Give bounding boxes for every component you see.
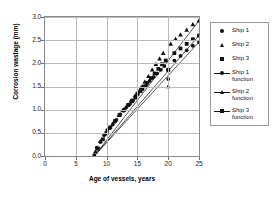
gridline-vertical	[76, 17, 77, 156]
y-tick-label: 1.0	[11, 106, 41, 113]
data-point	[108, 125, 112, 129]
legend-label: Ship 1	[232, 27, 249, 34]
circle-marker-icon	[214, 27, 230, 36]
x-tick-label: 25	[188, 161, 210, 168]
x-tick-mark	[45, 157, 46, 160]
square-marker-icon	[214, 55, 230, 64]
legend-label: Ship 3 function	[232, 107, 253, 121]
legend-item[interactable]: Ship 2	[214, 41, 266, 50]
data-point	[101, 137, 105, 141]
data-point	[184, 28, 189, 32]
x-tick-mark	[76, 157, 77, 160]
gridline-horizontal	[45, 17, 199, 18]
data-point	[145, 81, 149, 85]
x-tick-label: 15	[126, 161, 148, 168]
legend-item[interactable]: Ship 1	[214, 27, 266, 36]
gridline-vertical	[107, 17, 108, 156]
data-point	[149, 76, 153, 80]
legend-item[interactable]: Ship 3	[214, 55, 266, 64]
y-tick-label: 0.0	[11, 153, 41, 160]
legend-label: Ship 1 function	[232, 69, 253, 83]
x-tick-label: 5	[65, 161, 87, 168]
legend-triangle-icon	[220, 90, 224, 94]
y-tick-label: 3.0	[11, 14, 41, 21]
data-point	[150, 67, 155, 71]
y-tick-label: 0.5	[11, 129, 41, 136]
legend-label: Ship 2	[232, 41, 249, 48]
chart-figure: Corrosion wastage (mm) 0.00.51.01.52.02.…	[0, 0, 275, 197]
data-point	[157, 56, 162, 60]
x-tick-mark	[168, 157, 169, 160]
data-point	[126, 103, 130, 107]
triangle-marker-icon	[214, 88, 230, 97]
data-point	[185, 42, 189, 46]
x-axis-title: Age of vessels, years	[44, 175, 200, 182]
series-ship-1	[92, 40, 199, 156]
x-tick-label: 10	[96, 161, 118, 168]
data-point	[118, 113, 122, 117]
data-point	[113, 119, 117, 123]
gridline-horizontal	[45, 40, 199, 41]
circle-marker-icon	[214, 69, 230, 78]
gridline-vertical	[168, 17, 169, 156]
legend-item[interactable]: Ship 1 function	[214, 69, 266, 83]
data-point	[179, 47, 183, 51]
data-point	[139, 89, 143, 93]
legend-square-icon	[220, 57, 224, 61]
legend-item[interactable]: Ship 3 function	[214, 107, 266, 121]
gridline-vertical	[137, 17, 138, 156]
legend-circle-icon	[220, 29, 224, 33]
data-point	[156, 67, 160, 71]
x-tick-mark	[137, 157, 138, 160]
series-ship-1-function	[94, 42, 199, 156]
legend-label: Ship 3	[232, 55, 249, 62]
square-marker-icon	[214, 107, 230, 116]
legend-circle-icon	[220, 71, 224, 75]
legend-item[interactable]: Ship 2 function	[214, 88, 266, 102]
chart-legend: Ship 1Ship 2Ship 3Ship 1 functionShip 2 …	[210, 22, 269, 126]
x-tick-label: 0	[34, 161, 56, 168]
gridline-horizontal	[45, 63, 199, 64]
x-tick-mark	[107, 157, 108, 160]
y-tick-label: 1.5	[11, 83, 41, 90]
data-point	[161, 51, 166, 55]
y-tick-label: 2.0	[11, 60, 41, 67]
plot-area	[44, 16, 200, 157]
trend-line	[94, 36, 199, 156]
data-point	[130, 99, 134, 103]
triangle-marker-icon	[214, 41, 230, 50]
legend-triangle-icon	[220, 43, 224, 47]
gridline-horizontal	[45, 133, 199, 134]
x-tick-label: 20	[157, 161, 179, 168]
data-point	[190, 22, 195, 26]
y-tick-label: 2.5	[11, 37, 41, 44]
x-tick-mark	[199, 157, 200, 160]
gridline-horizontal	[45, 110, 199, 111]
trend-line	[94, 42, 199, 156]
series-ship-3-function	[94, 36, 199, 156]
legend-label: Ship 2 function	[232, 88, 253, 102]
data-point	[153, 72, 157, 76]
data-point	[178, 32, 183, 36]
gridline-horizontal	[45, 87, 199, 88]
legend-square-icon	[220, 109, 224, 113]
